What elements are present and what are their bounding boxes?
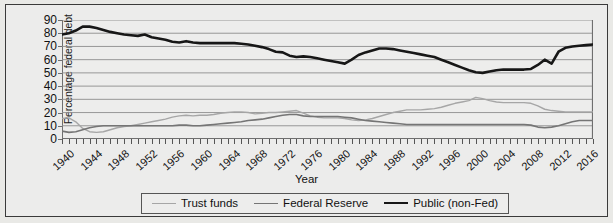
y-tick-label: 10 [44,120,57,132]
x-tick-mark [179,139,180,144]
x-tick-mark [386,139,387,144]
y-tick-label: 90 [44,14,57,26]
x-tick-label: 1988 [382,148,408,173]
x-tick-label: 1980 [327,148,353,173]
x-tick-mark [372,139,373,144]
x-tick-mark [469,139,470,144]
legend-line-icon-federal-reserve [254,203,278,204]
x-tick-label: 1944 [78,148,104,173]
y-tick-label: 50 [44,67,57,79]
x-tick-mark [186,139,187,144]
x-tick-mark [455,139,456,144]
x-tick-mark [490,139,491,144]
x-tick-mark [138,139,139,144]
x-tick-mark [352,139,353,144]
x-tick-mark [310,139,311,144]
y-tick-label: 20 [44,107,57,119]
x-tick-mark [200,139,201,144]
x-tick-mark [193,139,194,144]
x-tick-mark [400,139,401,144]
x-tick-mark [269,139,270,144]
x-tick-mark [559,139,560,144]
legend-label-public-non-fed: Public (non-Fed) [413,197,498,209]
legend-item-public-non-fed: Public (non-Fed) [384,197,498,209]
x-tick-mark [338,139,339,144]
x-tick-label: 1956 [161,148,187,173]
x-tick-mark [145,139,146,144]
x-axis-label: Year [6,173,607,185]
y-tick-label: 60 [44,54,57,66]
x-tick-mark [96,139,97,144]
legend-line-icon-public-non-fed [384,202,408,204]
x-tick-mark [324,139,325,144]
x-tick-mark [496,139,497,144]
x-tick-mark [393,139,394,144]
x-tick-mark [379,139,380,144]
x-tick-mark [110,139,111,144]
x-tick-mark [365,139,366,144]
x-tick-mark [538,139,539,144]
x-tick-mark [228,139,229,144]
x-tick-mark [572,139,573,144]
y-tick-label: 40 [44,80,57,92]
x-tick-mark [510,139,511,144]
chart-figure: Percentage federal debt 0102030405060708… [0,0,613,223]
plot-lines [62,20,593,139]
x-tick-mark [503,139,504,144]
x-tick-mark [483,139,484,144]
x-tick-mark [359,139,360,144]
x-tick-mark [331,139,332,144]
x-tick-label: 1972 [271,148,297,173]
chart-legend: Trust funds Federal Reserve Public (non-… [141,193,509,214]
x-tick-mark [248,139,249,144]
x-tick-mark [76,139,77,144]
legend-item-trust-funds: Trust funds [152,197,238,209]
x-tick-mark [441,139,442,144]
x-tick-mark [462,139,463,144]
x-tick-mark [317,139,318,144]
x-tick-mark [579,139,580,144]
x-tick-mark [531,139,532,144]
x-tick-mark [476,139,477,144]
y-tick-label: 30 [44,93,57,105]
x-tick-mark [214,139,215,144]
x-tick-label: 1996 [437,148,463,173]
x-tick-label: 1992 [409,148,435,173]
x-tick-mark [296,139,297,144]
legend-item-federal-reserve: Federal Reserve [254,197,368,209]
x-tick-label: 1976 [299,148,325,173]
x-tick-label: 2000 [465,148,491,173]
x-tick-mark [172,139,173,144]
x-tick-mark [434,139,435,144]
x-tick-mark [407,139,408,144]
x-tick-mark [593,139,594,144]
x-tick-label: 1964 [216,148,242,173]
x-tick-mark [517,139,518,144]
x-tick-mark [524,139,525,144]
x-tick-mark [552,139,553,144]
x-tick-mark [276,139,277,144]
x-tick-mark [545,139,546,144]
x-tick-label: 2016 [575,148,601,173]
x-tick-mark [565,139,566,144]
legend-label-federal-reserve: Federal Reserve [283,197,368,209]
x-tick-mark [421,139,422,144]
x-tick-mark [290,139,291,144]
x-tick-mark [83,139,84,144]
x-tick-mark [69,139,70,144]
x-tick-mark [152,139,153,144]
x-tick-mark [159,139,160,144]
x-tick-mark [586,139,587,144]
x-tick-mark [345,139,346,144]
x-tick-mark [131,139,132,144]
x-tick-mark [90,139,91,144]
x-tick-mark [262,139,263,144]
x-tick-mark [103,139,104,144]
x-tick-mark [283,139,284,144]
x-tick-mark [241,139,242,144]
x-tick-mark [124,139,125,144]
y-tick-label: 80 [44,27,57,39]
x-tick-label: 2012 [547,148,573,173]
chart-frame: Percentage federal debt 0102030405060708… [5,4,608,217]
x-tick-label: 1968 [244,148,270,173]
